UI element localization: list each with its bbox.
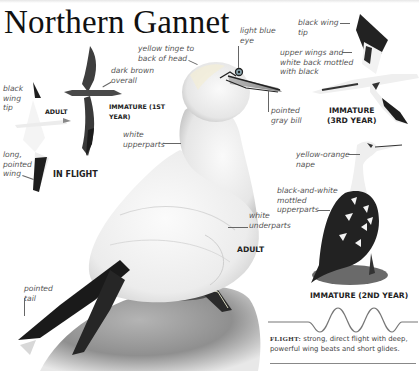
caption-adult: ADULT	[237, 245, 264, 255]
label-pointed-tail: pointed tail	[24, 284, 53, 303]
flight-heading: FLIGHT:	[270, 335, 301, 343]
flight-description: FLIGHT: strong, direct flight with deep,…	[270, 334, 416, 354]
leader-line	[318, 210, 330, 211]
label-light-blue-eye: light blue eye	[240, 26, 276, 45]
caption-in-flight: IN FLIGHT	[53, 170, 98, 180]
leader-line	[238, 46, 239, 68]
label-yellow-orange-nape: yellow-orange nape	[296, 150, 350, 169]
leader-line	[163, 143, 181, 144]
leader-line	[228, 227, 248, 228]
leader-line	[348, 154, 360, 155]
leader-line	[340, 23, 350, 24]
label-long-pointed-wing: long, pointed wing	[3, 150, 32, 179]
label-yellow-tinge-back-of-head: yellow tinge to back of head	[138, 44, 194, 63]
label-black-wing-tip-3rd-year: black wing tip	[298, 18, 339, 37]
field-guide-page: Northern Gannet	[0, 0, 419, 371]
caption-immature-1st-year: IMMATURE (1ST YEAR)	[109, 102, 165, 121]
label-white-upperparts: white upperparts	[123, 130, 165, 149]
leader-line	[342, 52, 352, 53]
label-pointed-gray-bill: pointed gray bill	[271, 106, 302, 125]
caption-immature-3rd-year: IMMATURE (3RD YEAR)	[327, 106, 376, 125]
leader-line	[24, 298, 25, 316]
bottom-rule	[270, 363, 416, 364]
label-dark-brown-overall: dark brown overall	[111, 66, 154, 85]
wavy-flight-path-icon	[268, 304, 418, 334]
caption-immature-2nd-year: IMMATURE (2ND YEAR)	[310, 291, 408, 301]
leader-line	[268, 90, 269, 112]
label-black-wing-tip-adult-flight: black wing tip	[3, 84, 23, 113]
caption-adult-flight: ADULT	[45, 107, 67, 117]
